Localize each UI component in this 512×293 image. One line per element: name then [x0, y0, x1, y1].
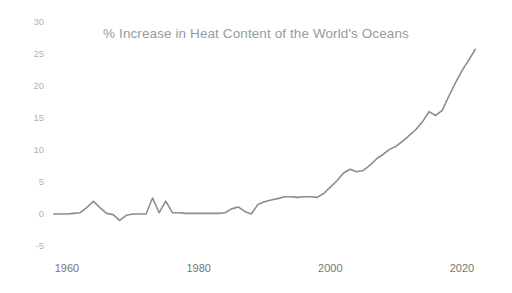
data-series-line [54, 50, 475, 221]
plot-area [0, 0, 512, 293]
chart-container: % Increase in Heat Content of the World'… [0, 0, 512, 293]
